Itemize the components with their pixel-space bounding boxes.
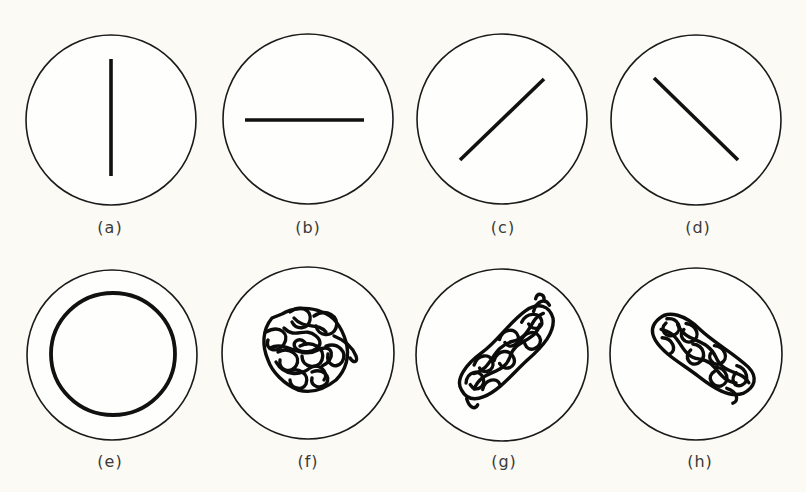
panel-a xyxy=(26,35,196,205)
panel-label-a: (a) xyxy=(70,218,150,238)
panel-label-c: (c) xyxy=(463,218,543,238)
panel-f xyxy=(222,267,394,439)
panel-label-e: (e) xyxy=(70,452,150,472)
panel-g xyxy=(416,269,588,441)
panel-label-g: (g) xyxy=(464,452,544,472)
panel-b xyxy=(223,34,393,204)
panel-c xyxy=(417,34,587,204)
panel-d xyxy=(611,35,781,205)
panel-label-d: (d) xyxy=(658,218,738,238)
molecular-shapes-figure: (a) (b) (c) (d) (e) (f) (g) (h) xyxy=(0,0,806,492)
figure-canvas xyxy=(0,0,806,492)
panel-h xyxy=(610,268,782,440)
panel-e xyxy=(27,270,197,440)
panel-label-f: (f) xyxy=(268,452,348,472)
panel-label-b: (b) xyxy=(268,218,348,238)
panel-h-circle xyxy=(610,268,782,440)
panel-g-circle xyxy=(416,269,588,441)
panel-label-h: (h) xyxy=(660,452,740,472)
